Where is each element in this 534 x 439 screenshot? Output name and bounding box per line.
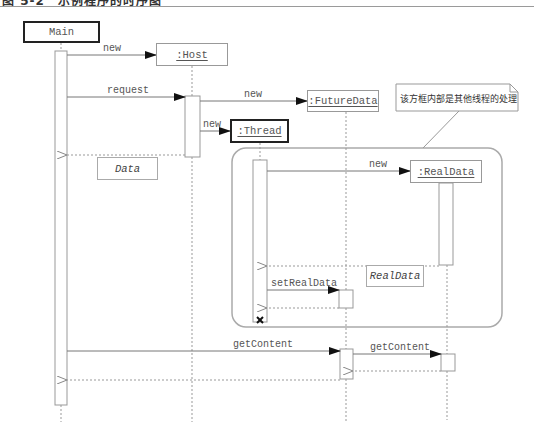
object-host: :Host bbox=[156, 43, 228, 66]
host-activation bbox=[185, 96, 200, 157]
main-activation bbox=[55, 51, 67, 405]
realdata-activation bbox=[439, 183, 453, 265]
object-futuredata: :FutureData bbox=[307, 90, 379, 112]
label-getcontent-future: getContent bbox=[370, 343, 430, 353]
label-request: request bbox=[107, 86, 149, 96]
label-setrealdata: setRealData bbox=[271, 279, 337, 289]
label-new-realdata: new bbox=[369, 160, 387, 170]
object-thread: :Thread bbox=[230, 119, 289, 143]
futuredata-getcontent-activation bbox=[340, 349, 353, 379]
sequence-diagram-canvas bbox=[0, 0, 534, 439]
label-new-thread: new bbox=[203, 120, 221, 130]
futuredata-setreal-activation bbox=[339, 290, 353, 308]
note-connector bbox=[423, 111, 459, 148]
object-main: Main bbox=[23, 21, 100, 43]
realdata-getcontent-activation bbox=[441, 354, 455, 371]
object-realdata: :RealData bbox=[410, 160, 482, 183]
thread-activation bbox=[253, 160, 267, 322]
label-new-host: new bbox=[103, 44, 121, 54]
return-data-box: Data bbox=[97, 157, 158, 180]
label-new-futuredata: new bbox=[244, 90, 262, 100]
note-text: 该方框内部是其他线程的处理 bbox=[400, 92, 517, 105]
label-getcontent-main: getContent bbox=[233, 340, 293, 350]
return-realdata-box: RealData bbox=[366, 265, 424, 287]
